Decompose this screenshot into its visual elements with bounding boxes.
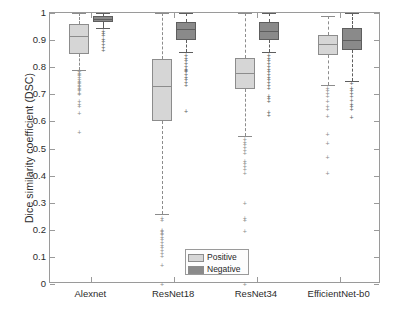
y-tick-label: 0.6: [14, 115, 46, 126]
outlier-marker: +: [326, 131, 330, 136]
outlier-marker: +: [267, 112, 271, 117]
whisker: [186, 40, 187, 52]
whisker: [328, 55, 329, 85]
y-tick: [374, 121, 379, 122]
whisker-cap: [96, 13, 110, 14]
chart-root: Dice similarity coefficient (DSC) 00.10.…: [0, 0, 401, 312]
y-tick-label: 1: [14, 7, 46, 18]
outlier-marker: +: [326, 107, 330, 112]
y-tick: [50, 40, 55, 41]
legend[interactable]: Positive Negative: [185, 249, 249, 275]
legend-label-positive: Positive: [207, 253, 237, 262]
y-tick-label: 0.8: [14, 61, 46, 72]
median-line: [342, 40, 362, 41]
outlier-marker: +: [243, 170, 247, 175]
whisker-cap: [155, 13, 169, 14]
median-line: [93, 19, 113, 20]
outlier-marker: +: [243, 229, 247, 234]
whisker: [186, 13, 187, 22]
outlier-marker: +: [326, 170, 330, 175]
y-tick: [50, 203, 55, 204]
y-tick: [374, 203, 379, 204]
box: [176, 22, 196, 40]
whisker: [269, 40, 270, 52]
outlier-marker: +: [243, 200, 247, 205]
legend-swatch-negative: [188, 266, 204, 274]
outlier-marker: +: [267, 99, 271, 104]
y-tick: [374, 149, 379, 150]
whisker: [269, 13, 270, 22]
y-tick: [374, 257, 379, 258]
legend-item-negative[interactable]: Negative: [188, 264, 246, 275]
whisker: [328, 16, 329, 35]
y-tick: [50, 230, 55, 231]
whisker-cap: [238, 13, 252, 14]
median-line: [318, 44, 338, 45]
whisker: [352, 13, 353, 28]
median-line: [69, 36, 89, 37]
outlier-marker: +: [77, 111, 81, 116]
y-tick-label: 0.7: [14, 88, 46, 99]
plot-inner: ++++++++++++++++++++++++++++++++++++++++…: [50, 13, 379, 282]
y-tick-label: 0: [14, 278, 46, 289]
outlier-marker: +: [243, 150, 247, 155]
y-tick-label: 0.3: [14, 196, 46, 207]
y-tick: [374, 40, 379, 41]
median-line: [235, 73, 255, 74]
x-tick: [174, 277, 175, 282]
whisker-cap: [262, 13, 276, 14]
x-tick-label: EfficientNet-b0: [308, 288, 370, 299]
y-tick: [374, 230, 379, 231]
box: [152, 59, 172, 121]
y-tick: [374, 67, 379, 68]
whisker: [245, 89, 246, 136]
outlier-marker: +: [326, 154, 330, 159]
box: [69, 24, 89, 54]
outlier-marker: +: [267, 85, 271, 90]
outlier-marker: +: [160, 218, 164, 223]
x-tick: [91, 277, 92, 282]
x-tick: [91, 13, 92, 18]
x-tick-label: Alexnet: [75, 288, 107, 299]
outlier-marker: +: [77, 130, 81, 135]
outlier-marker: +: [160, 253, 164, 258]
legend-item-positive[interactable]: Positive: [188, 252, 246, 263]
outlier-marker: +: [184, 82, 188, 87]
x-tick-label: ResNet18: [152, 288, 194, 299]
y-tick: [50, 176, 55, 177]
whisker: [162, 121, 163, 213]
median-line: [152, 86, 172, 87]
whisker-cap: [72, 13, 86, 14]
x-tick: [174, 13, 175, 18]
x-tick-label: ResNet34: [235, 288, 277, 299]
y-tick: [50, 13, 55, 14]
outlier-marker: +: [160, 282, 164, 287]
box: [342, 28, 362, 50]
whisker-cap: [345, 13, 359, 14]
median-line: [259, 31, 279, 32]
y-tick: [374, 284, 379, 285]
outlier-marker: +: [326, 113, 330, 118]
whisker: [79, 13, 80, 24]
outlier-marker: +: [243, 282, 247, 287]
outlier-marker: +: [101, 47, 105, 52]
plot-area: ++++++++++++++++++++++++++++++++++++++++…: [49, 12, 380, 283]
legend-label-negative: Negative: [207, 265, 241, 274]
median-line: [176, 29, 196, 30]
x-tick: [340, 277, 341, 282]
y-tick-label: 0.4: [14, 169, 46, 180]
outlier-marker: +: [184, 108, 188, 113]
outlier-marker: +: [243, 218, 247, 223]
y-tick-label: 0.2: [14, 223, 46, 234]
y-tick: [50, 284, 55, 285]
y-tick-label: 0.1: [14, 250, 46, 261]
y-tick-label: 0.5: [14, 142, 46, 153]
whisker: [162, 13, 163, 59]
y-tick: [50, 94, 55, 95]
y-tick: [50, 67, 55, 68]
y-tick: [50, 257, 55, 258]
y-tick: [374, 176, 379, 177]
outlier-marker: +: [350, 107, 354, 112]
y-tick: [50, 121, 55, 122]
outlier-marker: +: [160, 263, 164, 268]
